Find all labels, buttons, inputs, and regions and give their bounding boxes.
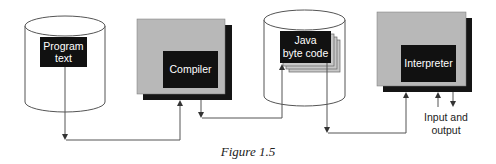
java-byte-code-cylinder-top [264,10,345,30]
program-text-label-line1: Program [43,40,84,52]
arrowhead-up-icon [177,100,183,106]
java-byte-code-label-line2: byte code [283,47,329,59]
arrowhead-down-icon [450,101,456,107]
io-label-line2: output [431,124,460,136]
compiler-node: Compiler [137,19,232,100]
arrowhead-down-icon [324,127,330,133]
arrowhead-up-icon [435,92,441,98]
compiler-label: Compiler [169,63,212,75]
io-label-line1: Input and [424,111,468,123]
interpreter-label: Interpreter [404,57,453,69]
java-byte-code-node: Java byte code [264,10,345,106]
interpreter-node: Interpreter [377,12,472,92]
figure-caption: Figure 1.5 [220,144,276,159]
java-compilation-diagram: Program text Compiler Java byte code Int… [0,0,496,164]
program-text-label-line2: text [55,52,72,64]
edge-io [435,92,456,107]
arrowhead-down-icon [62,134,68,140]
arrowhead-up-icon [403,92,409,98]
java-byte-code-label-line1: Java [294,34,316,46]
edge-bytecode-to-interpreter-line [328,98,406,133]
arrowhead-down-icon [198,112,204,118]
program-text-cylinder-top [25,16,105,36]
